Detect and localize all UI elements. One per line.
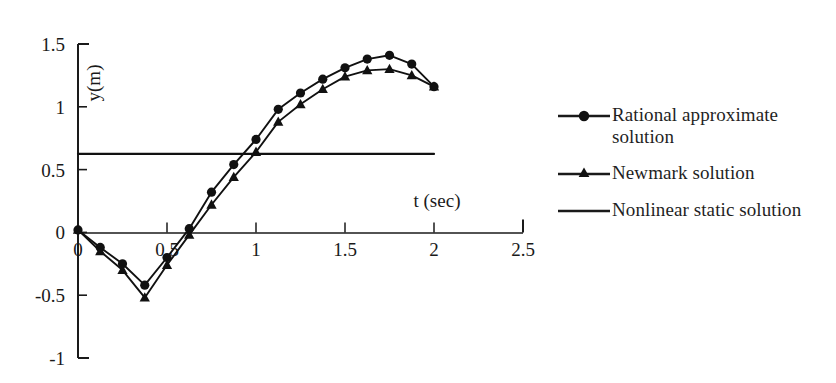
series-layer bbox=[73, 51, 439, 302]
y-tick-label: 1 bbox=[56, 97, 66, 118]
data-point bbox=[274, 105, 283, 114]
x-tick-label: 0 bbox=[73, 239, 83, 260]
x-tick-label: 1.5 bbox=[333, 239, 357, 260]
x-tick-marks bbox=[78, 219, 523, 232]
chart-figure: 1.510.50-0.5-1 00.511.522.5 t (sec) y(m)… bbox=[0, 0, 836, 383]
data-point bbox=[207, 188, 216, 197]
data-point bbox=[363, 54, 372, 63]
y-tick-labels: 1.510.50-0.5-1 bbox=[35, 34, 65, 369]
data-point bbox=[251, 135, 260, 144]
triangle-marker-icon bbox=[556, 163, 612, 185]
x-tick-labels: 00.511.522.5 bbox=[73, 239, 535, 260]
data-point bbox=[318, 75, 327, 84]
x-tick-label: 2 bbox=[429, 239, 439, 260]
legend-label: Newmark solution bbox=[612, 162, 755, 184]
legend-item-newmark-solution[interactable]: Newmark solution bbox=[556, 162, 836, 185]
legend-item-rational-approximate-solution[interactable]: Rational approximate solution bbox=[556, 104, 836, 148]
legend-item-nonlinear-static-solution[interactable]: Nonlinear static solution bbox=[556, 199, 836, 222]
y-tick-label: -1 bbox=[49, 348, 65, 369]
y-axis-title: y(m) bbox=[83, 65, 105, 102]
y-tick-label: 0.5 bbox=[41, 160, 65, 181]
data-point bbox=[407, 59, 416, 68]
circle-marker-icon bbox=[556, 105, 612, 127]
legend-label: Rational approximate solution bbox=[612, 104, 836, 148]
data-point bbox=[385, 51, 394, 60]
x-axis-title: t (sec) bbox=[414, 190, 461, 212]
data-point bbox=[340, 63, 349, 72]
data-point bbox=[384, 64, 394, 73]
x-tick-label: 1 bbox=[251, 239, 261, 260]
data-point bbox=[229, 160, 238, 169]
series-newmark-solution bbox=[73, 64, 439, 302]
y-tick-label: 1.5 bbox=[41, 34, 65, 55]
x-tick-label: 2.5 bbox=[511, 239, 535, 260]
y-tick-label: 0 bbox=[56, 222, 66, 243]
chart-legend: Rational approximate solution Newmark so… bbox=[556, 104, 836, 236]
data-point bbox=[296, 88, 305, 97]
y-tick-label: -0.5 bbox=[35, 285, 65, 306]
data-point bbox=[140, 281, 149, 290]
data-point bbox=[295, 99, 305, 108]
legend-label: Nonlinear static solution bbox=[612, 199, 801, 221]
series-line bbox=[78, 69, 434, 298]
line-marker-icon bbox=[556, 200, 612, 222]
data-point bbox=[318, 84, 328, 93]
